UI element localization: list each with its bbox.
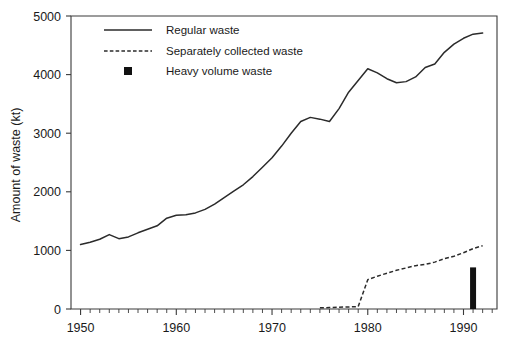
y-axis-title: Amount of waste (kt) xyxy=(9,108,23,223)
chart-canvas: 010002000300040005000 195019601970198019… xyxy=(0,0,508,345)
y-tick-label: 2000 xyxy=(33,185,61,199)
y-tick-label: 1000 xyxy=(33,244,61,258)
x-axis-tick-labels: 19501960197019801990 xyxy=(67,321,478,335)
y-axis-ticks xyxy=(66,16,71,309)
y-tick-label: 3000 xyxy=(33,127,61,141)
plot-frame xyxy=(71,16,497,309)
x-tick-label: 1990 xyxy=(450,321,478,335)
legend-item-label: Regular waste xyxy=(166,24,240,36)
heavy-volume-waste-bar xyxy=(470,267,476,309)
x-tick-label: 1960 xyxy=(162,321,190,335)
separately-collected-waste-line xyxy=(320,246,483,308)
chart-legend: Regular wasteSeparately collected wasteH… xyxy=(104,24,303,77)
x-axis-ticks xyxy=(81,309,493,315)
legend-swatch-filled-square-icon xyxy=(124,67,132,75)
x-tick-label: 1950 xyxy=(67,321,95,335)
y-tick-label: 5000 xyxy=(33,10,61,24)
x-tick-label: 1970 xyxy=(258,321,286,335)
y-axis-tick-labels: 010002000300040005000 xyxy=(33,10,61,317)
x-tick-label: 1980 xyxy=(354,321,382,335)
data-series-layer xyxy=(81,33,483,309)
regular-waste-line xyxy=(81,33,483,245)
y-tick-label: 4000 xyxy=(33,68,61,82)
plot-border xyxy=(71,16,497,309)
y-tick-label: 0 xyxy=(54,303,61,317)
legend-item-label: Heavy volume waste xyxy=(166,65,272,77)
waste-chart: 010002000300040005000 195019601970198019… xyxy=(0,0,508,345)
legend-item-label: Separately collected waste xyxy=(166,45,303,57)
